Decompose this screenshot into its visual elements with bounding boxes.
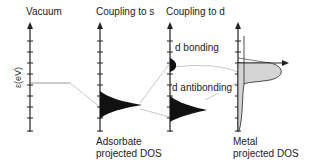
- adsorbate-dos-peak-s: [100, 91, 142, 119]
- panel-title-vacuum: Vacuum: [26, 6, 62, 17]
- metal-dos-label-line1: Metal: [233, 136, 257, 147]
- panel-title-coupling-d: Coupling to d: [166, 6, 225, 17]
- d-antibonding-label: d antibonding: [172, 82, 232, 93]
- dos-diagram: Vacuum Coupling to s Coupling to d ε(eV)…: [0, 0, 310, 165]
- metal-top-outline: [238, 58, 270, 63]
- d-antibonding-peak: [170, 96, 207, 122]
- adsorbate-dos-label-line2: projected DOS: [96, 148, 162, 159]
- d-bonding-label: d bonding: [175, 42, 219, 53]
- d-bonding-peak: [170, 58, 176, 72]
- metal-dos-label-line2: projected DOS: [233, 148, 299, 159]
- panel-title-coupling-s: Coupling to s: [96, 6, 154, 17]
- metal-d-band: [238, 63, 281, 131]
- adsorbate-dos-label-line1: Adsorbate: [96, 136, 142, 147]
- vacuum-axis: [27, 22, 33, 132]
- y-axis-label: ε(eV): [13, 67, 23, 88]
- diagram-canvas: [0, 0, 310, 165]
